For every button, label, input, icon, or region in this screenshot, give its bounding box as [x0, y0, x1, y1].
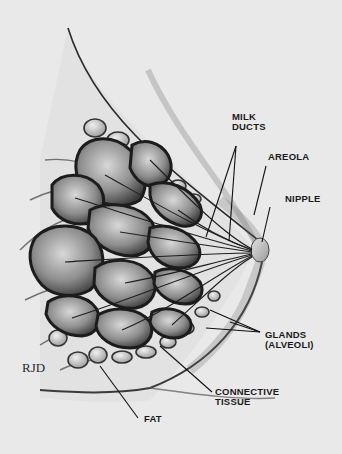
- artist-signature: RJD: [22, 360, 45, 376]
- label-connective-line2: TISSUE: [215, 397, 279, 407]
- label-milk-ducts-line2: DUCTS: [232, 122, 266, 132]
- nipple-shape: [251, 238, 269, 262]
- label-areola: AREOLA: [268, 152, 309, 162]
- label-milk-ducts: MILK DUCTS: [232, 112, 266, 132]
- label-nipple: NIPPLE: [285, 194, 321, 204]
- breast-anatomy-illustration: [0, 0, 342, 454]
- label-connective-tissue: CONNECTIVE TISSUE: [215, 387, 279, 407]
- label-glands: GLANDS (ALVEOLI): [265, 330, 314, 350]
- label-glands-line2: (ALVEOLI): [265, 340, 314, 350]
- label-fat: FAT: [144, 414, 162, 424]
